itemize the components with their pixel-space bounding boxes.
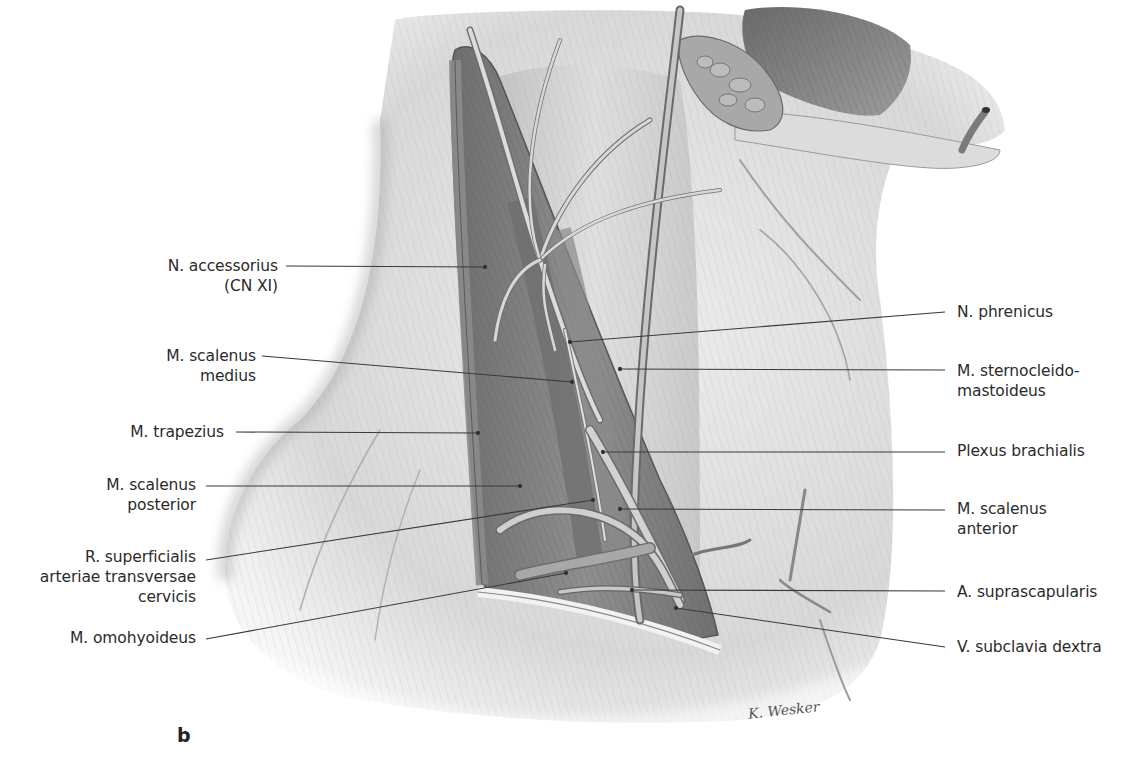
label-plexus-brachialis: Plexus brachialis	[957, 441, 1085, 461]
leader-dot-m-scalenus-medius	[570, 380, 573, 383]
leader-dot-m-omohyoideus	[564, 571, 567, 574]
leader-dot-n-accessorius	[483, 265, 486, 268]
label-m-scalenus-medius: M. scalenus medius	[138, 346, 256, 386]
leader-dot-m-scalenus-anterior	[618, 507, 621, 510]
label-m-scalenus-posterior: M. scalenus posterior	[98, 475, 196, 515]
leader-dot-m-sternocleidomastoideus	[618, 367, 621, 370]
leader-dot-m-scalenus-posterior	[518, 484, 521, 487]
leader-dot-plexus-brachialis	[601, 450, 604, 453]
leader-dot-r-superficialis	[591, 498, 594, 501]
label-v-subclavia-dextra: V. subclavia dextra	[957, 637, 1102, 657]
label-m-omohyoideus: M. omohyoideus	[52, 628, 196, 648]
label-n-phrenicus: N. phrenicus	[957, 302, 1053, 322]
label-n-accessorius: N. accessorius (CN XI)	[150, 256, 278, 296]
label-a-suprascapularis: A. suprascapularis	[957, 582, 1097, 602]
leader-dot-n-phrenicus	[568, 340, 571, 343]
leader-dot-v-subclavia-dextra	[674, 606, 677, 609]
leader-dot-m-trapezius	[476, 431, 479, 434]
leader-dot-a-suprascapularis	[630, 588, 633, 591]
label-r-superficialis: R. superficialis arteriae transversae ce…	[20, 547, 196, 607]
label-m-trapezius: M. trapezius	[112, 422, 224, 442]
label-m-scalenus-anterior: M. scalenus anterior	[957, 499, 1047, 539]
panel-letter: b	[177, 724, 191, 746]
label-m-sternocleidomastoideus: M. sternocleido- mastoideus	[957, 361, 1080, 401]
